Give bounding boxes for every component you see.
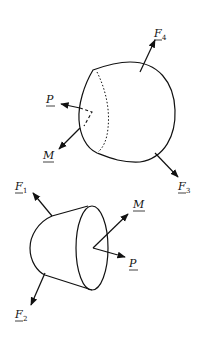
svg-text:F: F xyxy=(14,308,23,321)
label-f3: F 3 xyxy=(177,180,190,195)
arrow-p-top xyxy=(61,104,80,108)
svg-text:P: P xyxy=(128,257,137,270)
svg-text:F: F xyxy=(14,180,23,193)
svg-text:F: F xyxy=(177,180,186,193)
bottom-body-cut-face xyxy=(76,206,108,290)
svg-text:2: 2 xyxy=(23,315,27,323)
svg-text:P: P xyxy=(45,93,54,106)
label-p-bottom: P xyxy=(128,257,138,270)
label-m-top: M xyxy=(42,149,55,162)
arrow-p-bottom xyxy=(93,248,125,257)
svg-text:3: 3 xyxy=(186,187,190,195)
label-p-top: P xyxy=(45,93,55,106)
arrow-f1 xyxy=(33,193,52,216)
arrow-m-top xyxy=(59,128,80,149)
svg-text:F: F xyxy=(153,27,162,40)
arrow-m-bottom xyxy=(93,214,128,248)
svg-text:1: 1 xyxy=(23,187,27,195)
svg-text:M: M xyxy=(132,198,145,211)
label-f2: F 2 xyxy=(14,308,27,323)
top-body-hidden-arrows xyxy=(80,108,92,126)
label-m-bottom: M xyxy=(132,198,145,211)
top-body-hidden-section xyxy=(97,72,109,152)
svg-text:M: M xyxy=(42,149,55,162)
label-f1: F 1 xyxy=(14,180,27,195)
label-f4: F 4 xyxy=(153,27,167,42)
bottom-body-outline xyxy=(30,206,92,290)
arrow-f3 xyxy=(155,153,178,177)
arrow-f2 xyxy=(31,273,45,305)
bottom-body xyxy=(30,193,128,305)
top-body xyxy=(59,40,178,177)
svg-text:4: 4 xyxy=(162,34,167,42)
free-body-diagram: F 4 F 3 P M F 1 F 2 xyxy=(0,0,204,339)
top-body-outline xyxy=(79,62,175,162)
